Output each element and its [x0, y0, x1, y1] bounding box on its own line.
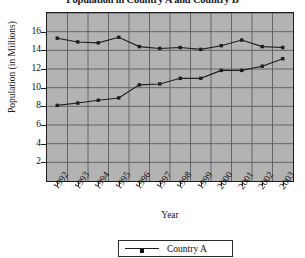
x-tick-label: 2002 — [257, 170, 276, 191]
legend-label-country-a: Country A — [167, 244, 207, 254]
x-tick-label: 1995 — [114, 170, 133, 191]
legend-marker-icon — [123, 242, 161, 256]
chart-legend: Country A — [118, 240, 233, 257]
x-tick-label: 1997 — [155, 170, 174, 191]
x-tick-label: 1999 — [196, 170, 215, 191]
x-tick-label: 1994 — [93, 170, 112, 191]
x-tick-label: 1993 — [73, 170, 92, 191]
x-tick-label: 2000 — [216, 170, 235, 191]
x-tick-label: 2001 — [237, 170, 256, 191]
x-tick-label: 1992 — [52, 170, 71, 191]
x-tick-label: 2003 — [278, 170, 297, 191]
chart-figure: Population in Country A and Country B Po… — [0, 0, 305, 258]
x-tick-label: 1996 — [134, 170, 153, 191]
x-axis-title: Year — [46, 210, 294, 220]
x-tick-label: 1998 — [175, 170, 194, 191]
